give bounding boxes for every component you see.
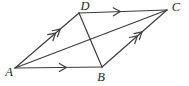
diagonal-DB xyxy=(79,13,102,67)
parallelogram-diagram: A B C D xyxy=(0,0,189,86)
vertex-label-c: C xyxy=(172,0,181,14)
vertex-label-a: A xyxy=(4,65,13,79)
geometry-figure-canvas: A B C D xyxy=(0,0,189,86)
parallel-marks-group xyxy=(48,8,145,72)
diagonal-AC xyxy=(15,10,167,68)
vertex-label-b: B xyxy=(97,70,105,84)
diagonals-group xyxy=(15,10,167,68)
vertex-label-d: D xyxy=(79,0,89,13)
edge-BC xyxy=(102,10,167,67)
edge-AB xyxy=(15,67,102,68)
edge-DC xyxy=(79,10,167,13)
edge-AD xyxy=(15,13,79,68)
